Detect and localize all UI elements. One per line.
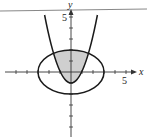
x-tick-label-5: 5: [122, 75, 127, 86]
y-tick-label-5: 5: [62, 12, 67, 23]
y-axis-label: y: [67, 0, 73, 10]
top-rule: [0, 9, 147, 11]
x-axis-label: x: [138, 66, 144, 77]
graph-canvas: y 5 x 5: [0, 0, 147, 137]
